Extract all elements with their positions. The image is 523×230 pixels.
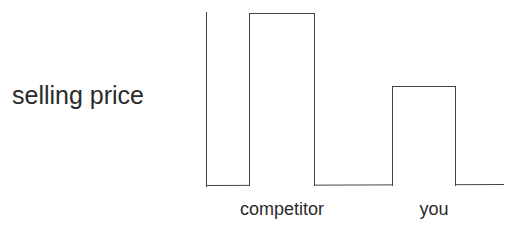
x-tick-you: you <box>404 198 464 220</box>
y-axis-label: selling price <box>12 80 144 110</box>
x-tick-competitor: competitor <box>232 198 332 220</box>
y-axis-line <box>206 12 207 187</box>
bar-competitor <box>249 13 315 186</box>
bar-you <box>392 86 456 186</box>
